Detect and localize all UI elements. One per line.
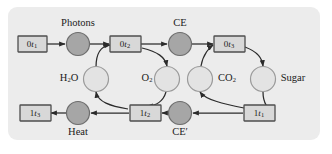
edge-h2o-to-0t2	[96, 45, 110, 67]
place-heat[interactable]	[67, 102, 90, 125]
place-o2[interactable]	[155, 67, 180, 92]
label-ce: CE	[173, 17, 186, 28]
diagram-canvas: 0t1 0t2 0t3 1t3 1t2 1t1 Photons CE Heat …	[0, 0, 332, 154]
edge-1t2-to-h2o	[96, 92, 128, 109]
edge-0t3-to-sugar	[245, 47, 263, 66]
label-heat: Heat	[68, 126, 88, 137]
place-photons[interactable]	[67, 33, 90, 56]
edge-1t1-to-co2	[200, 92, 244, 108]
label-co2: CO2	[218, 72, 236, 83]
edge-o2-to-1t2	[147, 92, 166, 106]
edge-co2-to-0t3	[201, 45, 213, 66]
place-ce[interactable]	[169, 33, 192, 56]
edge-0t2-to-o2	[142, 48, 167, 66]
label-sugar: Sugar	[281, 72, 306, 83]
place-h2o[interactable]	[84, 67, 109, 92]
place-co2[interactable]	[188, 67, 213, 92]
petri-net-diagram: 0t1 0t2 0t3 1t3 1t2 1t1 Photons CE Heat …	[0, 0, 332, 154]
label-o2: O2	[142, 72, 153, 83]
place-layer-light	[84, 67, 276, 92]
label-photons: Photons	[61, 17, 95, 28]
place-sugar[interactable]	[251, 67, 276, 92]
place-ce-prime[interactable]	[169, 102, 192, 125]
label-h2o: H2O	[60, 72, 79, 83]
label-ce-prime: CE′	[172, 126, 188, 137]
